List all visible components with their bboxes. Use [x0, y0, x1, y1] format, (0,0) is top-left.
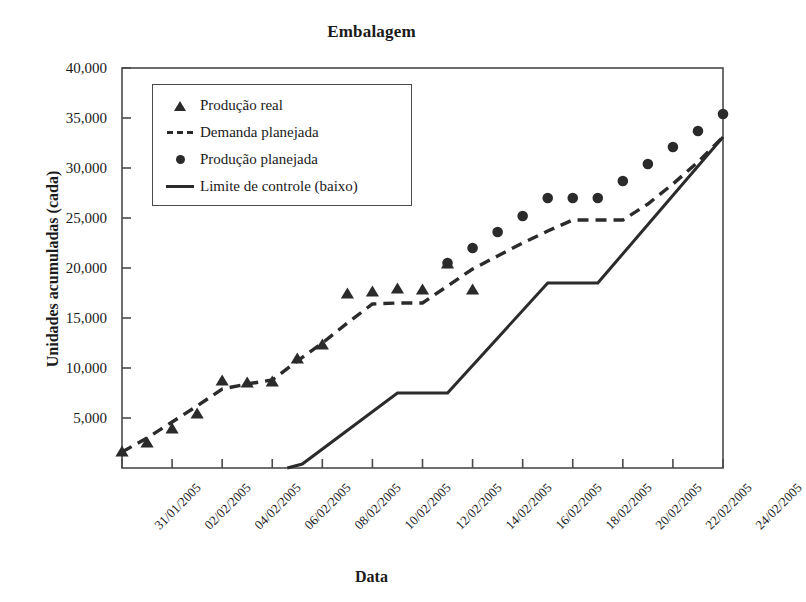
producao-real-marker — [341, 288, 354, 299]
series-2 — [442, 109, 728, 269]
producao-real-marker — [165, 423, 178, 434]
y-axis-tick-label: 30,000 — [0, 160, 107, 177]
legend-label: Produção planejada — [197, 151, 318, 168]
producao-real-marker — [416, 284, 429, 295]
producao-planejada-marker — [492, 227, 503, 238]
producao-planejada-marker — [618, 176, 629, 187]
producao-planejada-marker — [442, 258, 453, 269]
y-axis-tick-label: 35,000 — [0, 110, 107, 127]
y-axis-tick-label: 15,000 — [0, 310, 107, 327]
circle-marker-icon — [163, 152, 197, 168]
triangle-marker-icon — [163, 98, 197, 114]
y-axis-tick-label: 40,000 — [0, 60, 107, 77]
legend-label: Produção real — [197, 97, 283, 114]
producao-planejada-marker — [542, 193, 553, 204]
y-axis-tick-label: 20,000 — [0, 260, 107, 277]
producao-planejada-marker — [668, 142, 679, 153]
series-0 — [115, 258, 479, 457]
producao-planejada-marker — [693, 126, 704, 137]
y-axis-tick-label: 25,000 — [0, 210, 107, 227]
y-axis-tick-label: 10,000 — [0, 360, 107, 377]
producao-real-marker — [466, 284, 479, 295]
producao-planejada-marker — [517, 211, 528, 222]
producao-real-marker — [391, 283, 404, 294]
solid-line-icon — [163, 179, 197, 195]
y-axis-tick-label: 5,000 — [0, 410, 107, 427]
chart-legend: Produção real Demanda planejada Produção… — [152, 84, 412, 206]
producao-planejada-marker — [567, 193, 578, 204]
legend-label: Demanda planejada — [197, 124, 319, 141]
legend-item-producao-real: Produção real — [163, 92, 403, 119]
producao-planejada-marker — [592, 193, 603, 204]
producao-planejada-marker — [718, 109, 729, 120]
legend-label: Limite de controle (baixo) — [197, 178, 358, 195]
x-axis-tick-label: 24/02/2005 — [752, 480, 805, 533]
dashed-line-icon — [163, 125, 197, 141]
producao-planejada-marker — [467, 243, 478, 254]
producao-real-marker — [216, 375, 229, 386]
legend-item-producao-planejada: Produção planejada — [163, 146, 403, 173]
producao-planejada-marker — [643, 159, 654, 170]
legend-item-limite-de-controle: Limite de controle (baixo) — [163, 173, 403, 200]
legend-item-demanda-planejada: Demanda planejada — [163, 119, 403, 146]
producao-real-marker — [366, 286, 379, 297]
